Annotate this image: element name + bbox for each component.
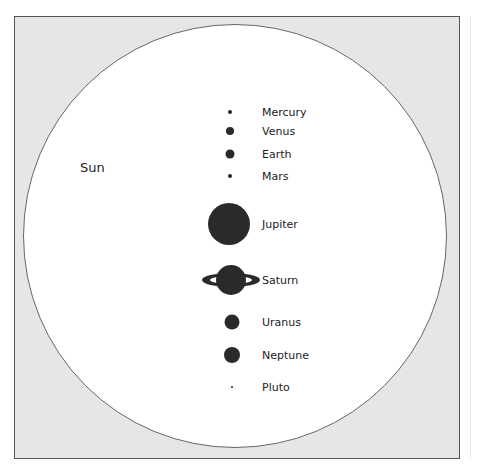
divider — [470, 16, 471, 459]
neptune-label: Neptune — [262, 349, 309, 362]
mars-icon — [228, 174, 232, 178]
earth-label: Earth — [262, 148, 292, 161]
neptune-icon — [224, 347, 240, 363]
mercury-icon — [228, 110, 232, 114]
mars-label: Mars — [262, 170, 289, 183]
jupiter-icon — [208, 203, 250, 245]
venus-label: Venus — [262, 125, 295, 138]
sun-label: Sun — [80, 160, 105, 175]
mercury-label: Mercury — [262, 106, 307, 119]
uranus-label: Uranus — [262, 316, 301, 329]
saturn-icon — [200, 263, 262, 297]
pluto-label: Pluto — [262, 381, 290, 394]
saturn-label: Saturn — [262, 274, 298, 287]
jupiter-label: Jupiter — [262, 218, 298, 231]
pluto-icon — [231, 386, 233, 388]
venus-icon — [226, 127, 234, 135]
earth-icon — [226, 150, 235, 159]
uranus-icon — [225, 315, 240, 330]
